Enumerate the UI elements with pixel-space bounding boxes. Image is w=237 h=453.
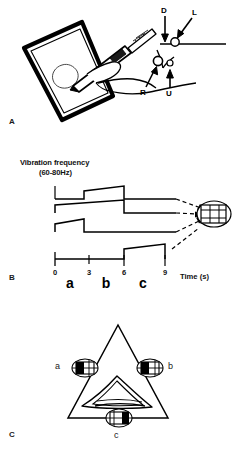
chart-subtitle: (60-80Hz): [39, 168, 72, 177]
direction-label-d: D: [161, 6, 167, 15]
trace-3-waveform: [55, 219, 176, 232]
triangle-label-c: c: [114, 430, 119, 440]
direction-label-l: L: [192, 8, 197, 17]
leader-line-2: [176, 213, 198, 214]
trace-2: [55, 200, 176, 213]
arrow-l: [181, 18, 192, 33]
joint-r-marker: [153, 56, 162, 65]
leader-line-4: [172, 228, 199, 249]
x-axis-label: Time (s): [180, 272, 209, 281]
arrow-d-head: [162, 34, 169, 42]
head-device-icon: [197, 201, 231, 227]
xtick-label-6: 6: [118, 268, 130, 277]
triangle-label-b: b: [168, 361, 173, 371]
panel-c-letter: C: [9, 430, 15, 439]
joint-u-marker: [167, 60, 173, 66]
trace-1-waveform: [55, 186, 176, 199]
inner-drawn-base-stroke-2: [97, 400, 142, 402]
panel-a-group: [24, 16, 226, 120]
direction-arrows: [146, 16, 192, 88]
trace-2-waveform: [55, 200, 176, 213]
joint-l-marker: [171, 38, 179, 46]
period-label-c: c: [134, 275, 152, 291]
trace-3: [55, 219, 176, 232]
trace-4-axis: [55, 244, 165, 266]
period-label-a: a: [61, 275, 79, 291]
xtick-label-3: 3: [83, 268, 95, 277]
leader-line-1: [176, 199, 201, 208]
trace-1: [55, 186, 176, 199]
arrow-u-head: [167, 70, 174, 79]
vibrator-c: [106, 409, 132, 427]
period-label-b: b: [97, 275, 115, 291]
x-axis-line: [55, 244, 165, 259]
stylus-upper-barrel: [128, 29, 156, 53]
figure-canvas: [0, 0, 237, 453]
xtick-label-9: 9: [159, 268, 171, 277]
vibrator-b: [137, 359, 163, 377]
vibrator-a: [72, 359, 98, 377]
head-band: [201, 205, 226, 223]
panel-a-letter: A: [9, 117, 15, 126]
direction-label-r: R: [140, 88, 146, 97]
direction-label-u: U: [166, 89, 172, 98]
panel-c-group: [68, 325, 168, 427]
chart-title: Vibration frequency: [20, 158, 89, 167]
xtick-label-0: 0: [49, 268, 61, 277]
triangle-label-a: a: [55, 361, 60, 371]
panel-b-letter: B: [9, 273, 15, 282]
panel-b-group: [55, 186, 231, 266]
leader-lines: [172, 199, 201, 249]
